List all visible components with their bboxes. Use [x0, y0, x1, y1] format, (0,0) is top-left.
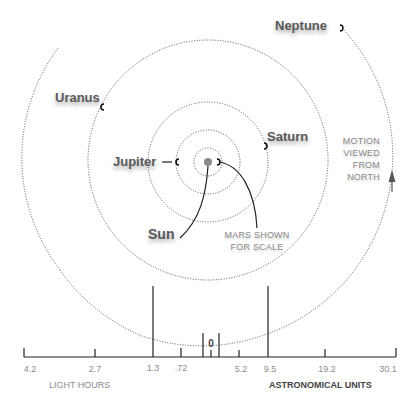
sun-icon — [204, 158, 212, 166]
tick-label-9-5: 9.5 — [264, 365, 277, 374]
neptune-orbit-lower — [60, 270, 142, 336]
motion-caption-line-3: FROM — [330, 159, 380, 171]
neptune-orbit — [22, 28, 393, 346]
tick-label-0-72: .72 — [175, 364, 188, 373]
sun-label: Sun — [148, 227, 174, 241]
neptune-marker — [340, 25, 343, 31]
jupiter-label: Jupiter — [113, 155, 156, 168]
uranus-label: Uranus — [55, 91, 100, 104]
motion-caption-line-2: VIEWED — [330, 147, 380, 159]
astronomical-units-label: ASTRONOMICAL UNITS — [269, 381, 372, 390]
saturn-label: Saturn — [267, 130, 308, 143]
sun-leader — [180, 166, 208, 238]
light-hours-label: LIGHT HOURS — [49, 381, 110, 390]
mars-caption-line-1: MARS SHOWN — [212, 229, 302, 241]
tick-label-2-7: 2.7 — [89, 365, 102, 374]
neptune-label: Neptune — [275, 19, 327, 32]
motion-arrow-icon — [389, 170, 396, 182]
tick-label-30-1: 30.1 — [379, 365, 397, 374]
motion-caption-line-4: NORTH — [330, 171, 380, 183]
mars-caption-line-2: FOR SCALE — [212, 241, 302, 253]
tick-label-5-2: 5.2 — [235, 365, 248, 374]
jupiter-marker — [176, 159, 179, 165]
motion-caption-line-1: MOTION — [330, 135, 380, 147]
mars-caption: MARS SHOWN FOR SCALE — [212, 229, 302, 253]
mars-leader — [219, 162, 257, 228]
motion-caption: MOTION VIEWED FROM NORTH — [330, 135, 380, 183]
tick-label-1-3: 1.3 — [147, 364, 160, 373]
zero-label: 0 — [208, 339, 214, 349]
solar-system-diagram: Neptune Uranus Saturn Jupiter Sun MARS S… — [0, 0, 420, 410]
uranus-marker — [101, 104, 104, 110]
tick-label-19-2: 19.2 — [318, 365, 336, 374]
tick-label-4-2: 4.2 — [24, 365, 37, 374]
